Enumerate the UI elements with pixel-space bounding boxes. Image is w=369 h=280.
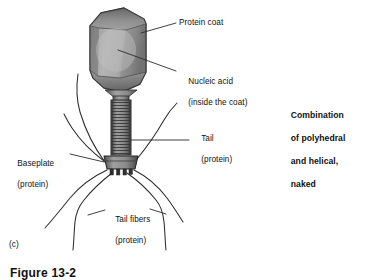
label-tail-fibers-line2: (protein) — [115, 236, 146, 245]
label-baseplate-line1: Baseplate — [17, 159, 54, 168]
panel-letter: (c) — [9, 240, 19, 251]
label-baseplate-line2: (protein) — [17, 180, 48, 189]
label-nucleic-acid: Nucleic acid (inside the coat) — [179, 66, 247, 119]
classification-note-line1: Combination — [291, 110, 344, 120]
label-protein-coat: Protein coat — [179, 18, 223, 29]
label-tail-line2: (protein) — [201, 155, 232, 164]
label-tail-fibers-line1: Tail fibers — [115, 215, 150, 224]
label-baseplate: Baseplate (protein) — [8, 148, 54, 201]
label-tail: Tail (protein) — [192, 123, 232, 176]
classification-note-line3: and helical, — [291, 156, 338, 166]
label-nucleic-acid-line2: (inside the coat) — [188, 98, 247, 107]
classification-note-line4: naked — [291, 179, 316, 189]
helical-tail-icon — [111, 100, 131, 155]
leader-tail-fibers-right — [150, 209, 166, 214]
classification-note-line2: of polyhedral — [291, 133, 346, 143]
baseplate-icon — [104, 156, 138, 175]
leader-tail-fibers-left — [88, 210, 105, 215]
label-tail-line1: Tail — [201, 134, 213, 143]
label-nucleic-acid-line1: Nucleic acid — [188, 77, 233, 86]
label-tail-fibers: Tail fibers (protein) — [106, 204, 150, 257]
leader-baseplate — [70, 154, 104, 162]
classification-note: Combination of polyhedral and helical, n… — [281, 98, 365, 202]
collar-icon — [105, 90, 137, 101]
figure-caption: Figure 13-2 — [10, 266, 76, 280]
